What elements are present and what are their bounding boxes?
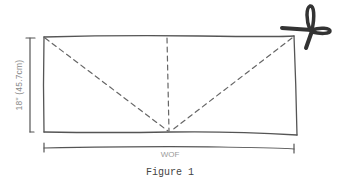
height-dimension-line: [26, 38, 35, 132]
dashed-cut-lines: [45, 38, 292, 131]
figure-diagram: 18" (45.7cm) WOF Figure 1: [0, 0, 348, 181]
dashed-line-left: [45, 38, 168, 131]
fabric-rectangle: [44, 36, 298, 135]
height-label: 18" (45.7cm): [14, 60, 24, 111]
width-label: WOF: [161, 150, 180, 159]
scissors-icon: [282, 6, 330, 48]
dashed-line-right: [171, 38, 292, 131]
figure-caption: Figure 1: [146, 167, 194, 178]
dashed-line-center: [167, 38, 169, 131]
